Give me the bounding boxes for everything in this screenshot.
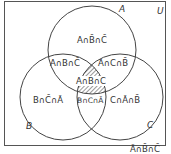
region-none: Ā∩B̄∩C̄ [130,143,160,154]
region-a-c-notb: A∩C∩B̄ [98,57,128,68]
set-a-label: A [118,4,125,14]
universe-label: U [157,6,164,16]
set-c-label: C [147,120,154,130]
region-b-c-nota: B∩C∩Ā [77,96,104,105]
set-b-label: B [26,121,32,131]
venn-diagram: U A B C A∩B̄∩C̄ A∩B∩C̄ A∩C∩B̄ A∩B∩C B∩C̄… [0,0,171,154]
region-a-b-c: A∩B∩C [76,76,106,86]
region-c-only: C∩Ā∩B̄ [110,94,140,105]
region-a-only: A∩B̄∩C̄ [77,34,107,45]
region-b-only: B∩C̄∩Ā [33,94,63,105]
region-a-b-notc: A∩B∩C̄ [50,57,80,68]
